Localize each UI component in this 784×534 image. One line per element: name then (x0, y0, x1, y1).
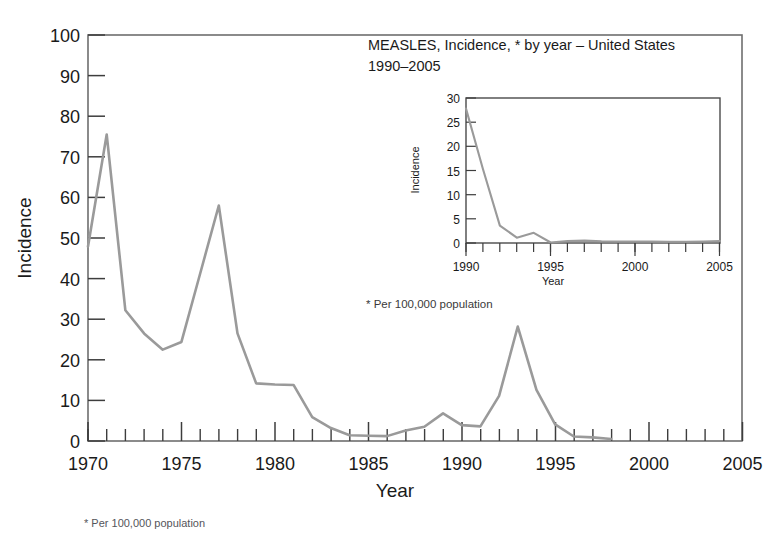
x-tick-label-1980: 1980 (255, 454, 295, 474)
x-tick-label-2000: 2000 (629, 454, 669, 474)
inset-x-tick-label-2000: 2000 (622, 260, 649, 274)
measles-incidence-figure: 100 90 80 70 60 50 40 30 20 10 0 Inciden… (0, 0, 784, 534)
y-tick-label-50: 50 (60, 229, 80, 249)
x-tick-label-1970: 1970 (68, 454, 108, 474)
y-tick-label-60: 60 (60, 188, 80, 208)
y-tick-label-30: 30 (60, 310, 80, 330)
inset-y-tick-label-30: 30 (447, 92, 461, 106)
inset-x-tick-label-1995: 1995 (537, 260, 564, 274)
y-tick-label-10: 10 (60, 391, 80, 411)
inset-y-tick-label-15: 15 (447, 165, 461, 179)
inset-x-tick-label-2005: 2005 (706, 260, 733, 274)
y-tick-label-70: 70 (60, 148, 80, 168)
y-tick-label-90: 90 (60, 67, 80, 87)
x-tick-label-1995: 1995 (535, 454, 575, 474)
outer-footnote: * Per 100,000 population (84, 517, 205, 529)
y-tick-label-100: 100 (50, 26, 80, 46)
main-x-axis-label: Year (376, 480, 415, 501)
inset-y-tick-label-10: 10 (447, 189, 461, 203)
inset-y-tick-label-0: 0 (453, 237, 460, 251)
inset-x-axis-label: Year (542, 275, 565, 287)
x-tick-label-1975: 1975 (161, 454, 201, 474)
inner-footnote: * Per 100,000 population (366, 298, 493, 310)
inset-y-tick-label-25: 25 (447, 116, 461, 130)
y-tick-label-0: 0 (70, 432, 80, 452)
inset-y-tick-label-5: 5 (453, 213, 460, 227)
y-tick-label-80: 80 (60, 107, 80, 127)
x-tick-label-1985: 1985 (348, 454, 388, 474)
x-tick-label-1990: 1990 (442, 454, 482, 474)
inset-y-tick-label-20: 20 (447, 140, 461, 154)
main-y-axis-label: Incidence (14, 197, 35, 278)
x-tick-label-2005: 2005 (722, 454, 762, 474)
inset-y-axis-label: Incidence (409, 146, 421, 193)
y-tick-label-20: 20 (60, 351, 80, 371)
inset-x-tick-label-1990: 1990 (453, 260, 480, 274)
chart-title-line2: 1990–2005 (368, 58, 441, 74)
chart-title-line1: MEASLES, Incidence, * by year – United S… (368, 37, 675, 53)
y-tick-label-40: 40 (60, 270, 80, 290)
